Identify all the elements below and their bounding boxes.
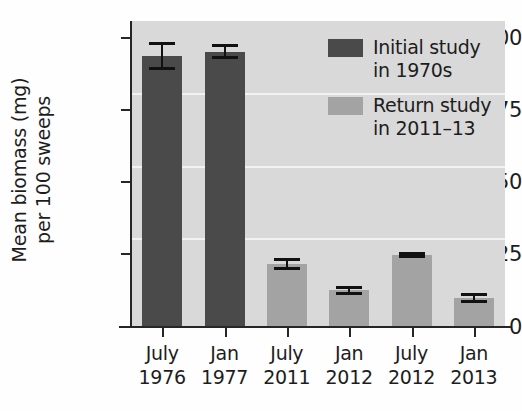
x-tick-mark-3	[287, 328, 289, 337]
error-cap-bottom	[274, 267, 300, 270]
y-axis-line	[130, 21, 132, 327]
x-tick-mark-6	[474, 328, 476, 337]
gridline-25	[131, 238, 505, 240]
error-stem	[161, 42, 163, 70]
x-tick-mark-1	[162, 328, 164, 337]
y-axis-title-line1: Mean biomass (mg)	[8, 78, 30, 263]
bar-july-2011	[267, 264, 307, 327]
bar-chart-figure: Mean biomass (mg) per 100 sweeps 100 75 …	[0, 0, 522, 411]
legend-swatch-return-study	[328, 97, 363, 115]
error-bar-jan-1977	[212, 44, 238, 59]
legend-label-initial-study-line1: Initial study	[373, 36, 480, 59]
error-cap-bottom	[461, 300, 487, 303]
legend-label-return-study-line2: in 2011–13	[373, 117, 491, 140]
legend-item-initial-study: Initial study in 1970s	[328, 36, 491, 82]
legend-item-return-study: Return study in 2011–13	[328, 94, 491, 140]
gridline-50	[131, 166, 505, 168]
error-bar-jan-2012	[336, 286, 362, 295]
error-cap-bottom	[212, 56, 238, 59]
x-tick-mark-2	[225, 328, 227, 337]
y-axis-title: Mean biomass (mg) per 100 sweeps	[0, 0, 62, 340]
error-bar-july-1976	[149, 42, 175, 70]
legend: Initial study in 1970s Return study in 2…	[328, 36, 491, 152]
legend-label-return-study-line1: Return study	[373, 94, 491, 117]
x-tick-label-line2: 2013	[436, 365, 512, 389]
bar-jan-2012	[329, 290, 369, 327]
x-tick-label-line1: Jan	[436, 341, 512, 365]
error-bar-july-2011	[274, 258, 300, 270]
bar-july-2012	[392, 255, 432, 327]
y-axis-title-line2: per 100 sweeps	[31, 78, 55, 263]
legend-label-initial-study-line2: in 1970s	[373, 59, 480, 82]
legend-swatch-initial-study	[328, 39, 363, 57]
error-cap-bottom	[399, 255, 425, 258]
bar-july-1976	[142, 56, 182, 327]
bar-jan-1977	[205, 52, 245, 327]
x-tick-label-jan-2013: Jan2013	[436, 341, 512, 389]
error-cap-bottom	[336, 292, 362, 295]
error-cap-bottom	[149, 67, 175, 70]
x-tick-mark-5	[412, 328, 414, 337]
x-axis-line	[119, 326, 511, 328]
error-bar-jan-2013	[461, 293, 487, 302]
error-bar-july-2012	[399, 252, 425, 258]
x-tick-mark-4	[349, 328, 351, 337]
